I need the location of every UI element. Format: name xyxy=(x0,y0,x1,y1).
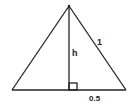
right-side xyxy=(69,6,126,90)
side-label: 1 xyxy=(97,37,102,47)
half-base-label: 0.5 xyxy=(89,94,101,103)
triangle-diagram: h 1 0.5 xyxy=(0,0,133,108)
height-label: h xyxy=(72,48,78,58)
right-angle-marker xyxy=(69,83,77,90)
triangle-shape xyxy=(12,6,126,90)
left-side xyxy=(12,6,69,90)
apex-point xyxy=(68,5,70,7)
